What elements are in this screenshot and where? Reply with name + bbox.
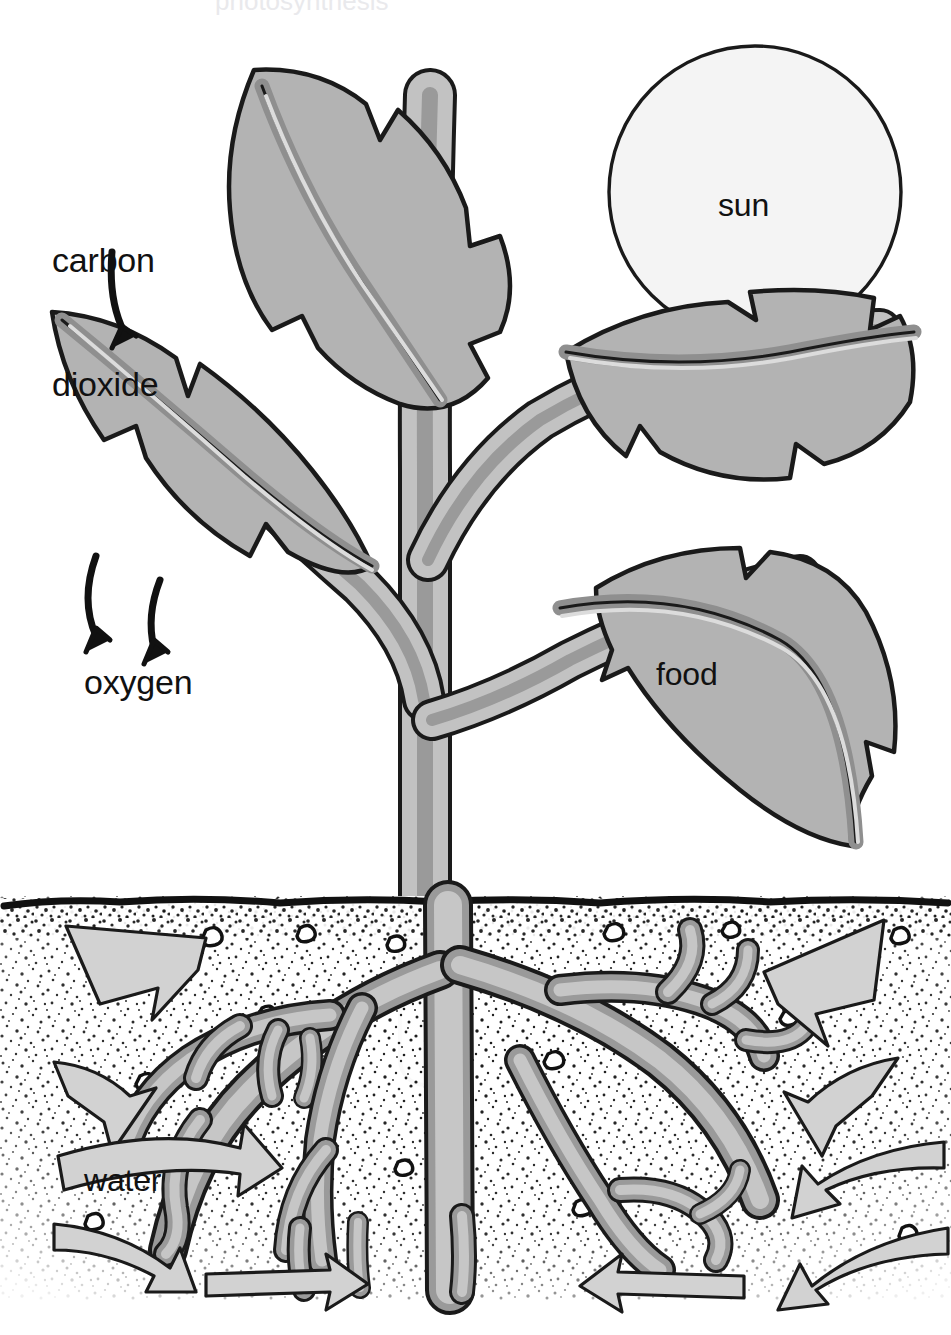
leaf-lower-right <box>560 548 895 846</box>
cropped-caption: photosynthesis <box>215 0 388 17</box>
oxygen-arrow-outer <box>88 556 96 636</box>
label-carbon-dioxide: carbon dioxide <box>52 157 158 489</box>
label-carbon-dioxide-line2: dioxide <box>52 364 158 405</box>
oxygen-arrowhead-outer <box>86 628 110 652</box>
label-carbon-dioxide-line1: carbon <box>52 240 158 281</box>
leaf-upper-right <box>566 290 916 480</box>
leaf-upper-center <box>229 70 510 409</box>
label-water: water <box>84 1161 161 1200</box>
oxygen-arrow-inner <box>151 580 160 648</box>
label-oxygen: oxygen <box>84 662 192 703</box>
oxygen-arrowhead-inner <box>144 640 168 664</box>
label-sun: sun <box>718 186 769 225</box>
label-food: food <box>656 655 717 694</box>
photosynthesis-diagram: photosynthesis carbon dioxide sun oxygen… <box>0 0 951 1335</box>
